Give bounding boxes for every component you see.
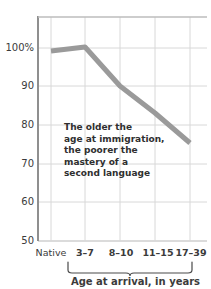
callout-line-5: second language xyxy=(64,168,165,180)
y-tick-label-70: 70 xyxy=(0,158,34,169)
callout-line-1: The older the xyxy=(64,122,165,134)
x-tick-label-17-39: 17–39 xyxy=(172,247,210,258)
callout-line-4: mastery of a xyxy=(64,157,165,169)
trend-callout: The older the age at immigration, the po… xyxy=(64,122,165,180)
y-tick-label-60: 60 xyxy=(0,196,34,207)
age-range-bracket xyxy=(68,262,192,276)
line-chart: 100% 90 80 70 60 50 Native 3–7 8–10 11–1… xyxy=(0,0,211,289)
x-tick-label-3-7: 3–7 xyxy=(68,247,102,258)
x-tick-label-native: Native xyxy=(31,247,71,258)
y-tick-label-90: 90 xyxy=(0,80,34,91)
y-tick-label-80: 80 xyxy=(0,119,34,130)
x-axis-caption: Age at arrival, in years xyxy=(60,276,211,287)
y-tick-label-100: 100% xyxy=(0,42,34,53)
callout-line-2: age at immigration, xyxy=(64,134,165,146)
x-tick-label-8-10: 8–10 xyxy=(102,247,140,258)
y-tick-label-50: 50 xyxy=(0,235,34,246)
callout-line-3: the poorer the xyxy=(64,145,165,157)
